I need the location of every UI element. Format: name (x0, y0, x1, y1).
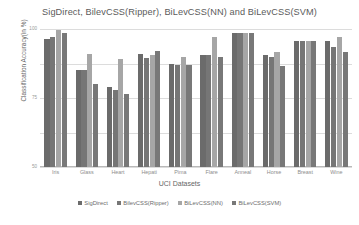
bar (294, 41, 299, 167)
bar-group (102, 29, 133, 167)
legend-label: BiLevCSS(SVM) (238, 200, 281, 206)
x-axis-tick-label: Pima (165, 169, 196, 175)
bar (343, 52, 348, 167)
bar (280, 66, 285, 167)
bar (237, 33, 242, 167)
legend-item[interactable]: BiLevCSS(SVM) (232, 200, 281, 206)
bar (138, 54, 143, 167)
bar-group (165, 29, 196, 167)
bar (150, 55, 155, 167)
bar (212, 37, 217, 167)
bar (50, 37, 55, 167)
bar (118, 59, 123, 167)
x-axis-tick-labels: IrisGlassHeartHepatiPimaFlareAnnealHorse… (40, 169, 352, 175)
chart-title: SigDirect, BilevCSS(Ripper), BiLevCSS(NN… (0, 7, 359, 17)
bar (300, 41, 305, 167)
legend-item[interactable]: SigDirect (78, 200, 108, 206)
x-axis-title: UCI Datasets (0, 180, 359, 187)
bar (306, 41, 311, 167)
bar (325, 41, 330, 167)
bar-group (40, 29, 71, 167)
bar (274, 52, 279, 167)
bar-group (134, 29, 165, 167)
bar (155, 51, 160, 167)
bar-group (227, 29, 258, 167)
gridline: 0 (40, 167, 352, 168)
bar-group (290, 29, 321, 167)
bar (200, 55, 205, 167)
bar (62, 33, 67, 167)
y-axis-tick-label: 75 (32, 96, 37, 101)
legend-label: BiLevCSS(NN) (184, 200, 223, 206)
bar (311, 41, 316, 167)
bar (107, 87, 112, 167)
bar (76, 70, 81, 167)
legend-label: SigDirect (84, 200, 108, 206)
bar (169, 64, 174, 168)
x-axis-tick-label: Glass (71, 169, 102, 175)
x-axis-tick-label: Hepati (134, 169, 165, 175)
x-axis-tick-label: Horse (258, 169, 289, 175)
plot-area: 0255075100 (40, 29, 352, 167)
bar (44, 39, 49, 167)
legend-item[interactable]: BilevCSS(Ripper) (117, 200, 169, 206)
bar (232, 33, 237, 167)
legend-swatch-icon (78, 201, 82, 205)
x-axis-tick-label: Flare (196, 169, 227, 175)
bar (331, 47, 336, 167)
y-axis-tick-label: 50 (32, 165, 37, 170)
bar (249, 33, 254, 167)
chart-legend: SigDirectBilevCSS(Ripper)BiLevCSS(NN)BiL… (0, 200, 359, 206)
bar-chart: SigDirect, BilevCSS(Ripper), BiLevCSS(NN… (0, 0, 359, 225)
bar (87, 54, 92, 167)
bar (269, 57, 274, 167)
bar (81, 70, 86, 167)
legend-swatch-icon (117, 201, 121, 205)
legend-label: BilevCSS(Ripper) (123, 200, 168, 206)
y-axis-tick-label: 100 (29, 27, 37, 32)
bar (144, 58, 149, 167)
bar (337, 37, 342, 167)
bar-groups (40, 29, 352, 167)
x-axis-tick-label: Iris (40, 169, 71, 175)
y-axis-title: Classification Accuracy(in %) (20, 0, 27, 131)
bar (113, 90, 118, 167)
x-axis-tick-label: Heart (102, 169, 133, 175)
legend-swatch-icon (178, 201, 182, 205)
legend-item[interactable]: BiLevCSS(NN) (178, 200, 223, 206)
bar (124, 94, 129, 167)
x-axis-tick-label: Breast (290, 169, 321, 175)
bar-group (71, 29, 102, 167)
bar-group (196, 29, 227, 167)
x-axis-tick-label: Wine (321, 169, 352, 175)
bar (243, 33, 248, 167)
bar (263, 55, 268, 167)
legend-swatch-icon (232, 201, 236, 205)
bar-group (258, 29, 289, 167)
bar (175, 65, 180, 167)
bar (206, 55, 211, 167)
bar (186, 65, 191, 167)
bar (181, 57, 186, 167)
bar (218, 57, 223, 167)
x-axis-tick-label: Anneal (227, 169, 258, 175)
bar (56, 30, 61, 167)
bar (93, 84, 98, 167)
bar-group (321, 29, 352, 167)
